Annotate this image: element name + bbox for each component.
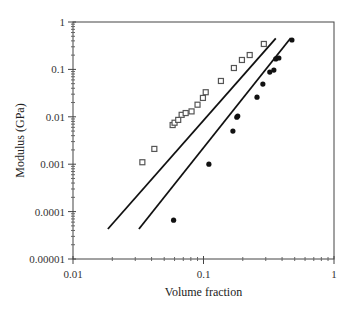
open-square-point [189,109,194,114]
y-tick-label: 0.0001 [35,206,65,218]
fit-line [139,38,291,229]
open-square-point [218,78,223,83]
open-square-point [183,111,188,116]
x-tick-label: 0.1 [197,268,211,280]
filled-circle-point [230,128,235,133]
y-tick-label: 0.1 [51,63,65,75]
fit-line [108,38,276,229]
y-axis-label: Modulus (GPa) [13,103,27,177]
y-tick-label: 1 [60,16,66,28]
x-tick-label: 1 [331,268,337,280]
open-square-point [200,95,205,100]
open-square-point [239,57,244,62]
filled-circle-point [206,162,211,167]
y-tick-label: 0.001 [40,158,65,170]
filled-circle-point [254,95,259,100]
chart: 10.10.010.0010.00010.00001 0.010.11 Volu… [0,0,352,310]
y-axis-ticks: 10.10.010.0010.00010.00001 [29,16,76,265]
x-axis-ticks: 0.010.11 [63,256,336,280]
filled-circle-point [260,81,265,86]
open-square-point [176,117,181,122]
open-square-point [195,102,200,107]
x-axis-label: Volume fraction [165,285,242,299]
open-square-point [231,66,236,71]
filled-circle-point [276,55,281,60]
filled-circle-point [171,218,176,223]
filled-circle-point [235,113,240,118]
y-tick-label: 0.00001 [29,253,65,265]
filled-circle-point [289,37,294,42]
open-square-point [203,90,208,95]
open-square-point [140,160,145,165]
fit-lines [108,38,291,229]
open-square-point [261,41,266,46]
open-square-point [152,146,157,151]
open-square-point [247,53,252,58]
x-tick-label: 0.01 [63,268,82,280]
y-tick-label: 0.01 [46,111,65,123]
filled-circle-point [271,67,276,72]
